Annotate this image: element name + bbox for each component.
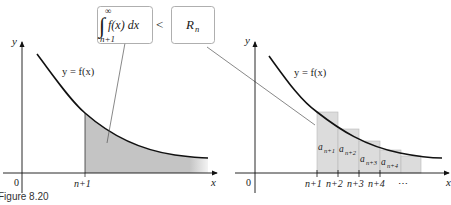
ellipsis-label: ⋯	[398, 178, 408, 189]
bar-subscript: n+1	[324, 147, 335, 154]
bar-a-n-plus-5	[401, 156, 421, 173]
integral-upper-limit: ∞	[105, 6, 111, 16]
origin-label: 0	[14, 177, 19, 188]
less-than-sign: <	[156, 17, 163, 32]
bar-label: a	[339, 144, 344, 154]
y-axis-label: y	[244, 34, 250, 46]
bar-label: a	[318, 142, 323, 152]
figure-caption: Figure 8.20	[0, 191, 49, 202]
remainder-subscript: n	[195, 24, 199, 34]
tick-label-n-plus-1: n+1	[74, 178, 91, 189]
x-axis-label: x	[210, 176, 216, 188]
origin-label: 0	[246, 177, 251, 188]
bar-subscript: n+4	[387, 162, 399, 169]
tick-label: n+1	[305, 178, 322, 189]
curve-label: y = f(x)	[62, 66, 95, 78]
integral-pointer-line	[107, 43, 125, 143]
figure-canvas: y x 0 y = f(x) n+1 ∫ ∞ n+1 f(x) dx < R n	[0, 0, 451, 205]
tick-label: n+3	[347, 178, 364, 189]
tick-label: n+4	[368, 178, 385, 189]
left-panel: y x 0 y = f(x) n+1	[3, 35, 217, 193]
bar-subscript: n+3	[366, 159, 378, 166]
remainder-pointer-line	[207, 47, 315, 125]
remainder-symbol: R	[185, 17, 194, 32]
tick-label: n+2	[326, 178, 343, 189]
right-panel: y x 0 y = f(x) n+1 n+2 n+3 n+4 ⋯ a n+1 a…	[235, 34, 451, 193]
curve-label: y = f(x)	[294, 67, 327, 79]
bar-subscript: n+2	[345, 149, 357, 156]
x-axis-label: x	[445, 176, 451, 188]
bar-label: a	[381, 157, 386, 167]
integrand: f(x) dx	[108, 18, 140, 32]
bar-label: a	[360, 154, 365, 164]
integral-lower-limit: n+1	[100, 34, 115, 44]
y-axis-label: y	[11, 35, 17, 47]
shaded-area	[85, 113, 208, 173]
